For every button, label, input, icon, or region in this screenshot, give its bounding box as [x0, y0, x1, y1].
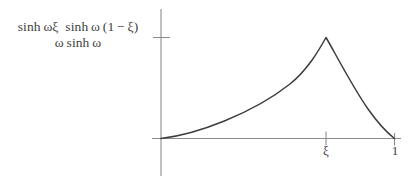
- y-axis-value-label: sinh ωξ sinh ω (1 − ξ) ω sinh ω: [4, 19, 152, 51]
- greens-function-figure: sinh ωξ sinh ω (1 − ξ) ω sinh ω ξ 1: [0, 0, 416, 181]
- x-tick-label-xi: ξ: [318, 143, 334, 159]
- greens-function-curve: [161, 38, 395, 139]
- y-axis-label-numerator: sinh ωξ sinh ω (1 − ξ): [4, 19, 152, 35]
- x-tick-label-one: 1: [387, 143, 403, 159]
- y-axis-label-denominator: ω sinh ω: [4, 35, 152, 51]
